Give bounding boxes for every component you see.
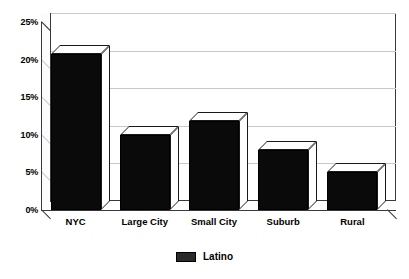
- legend-label-latino: Latino: [203, 252, 233, 262]
- x-axis-line: [41, 210, 396, 211]
- bar-front-face: [51, 54, 101, 210]
- x-axis-label: Small City: [179, 216, 248, 228]
- legend-swatch-latino: [176, 252, 196, 262]
- bar-small-city: [189, 112, 239, 210]
- bar-front-face: [189, 121, 239, 210]
- gridline: [50, 13, 396, 14]
- bar-large-city: [120, 126, 170, 210]
- bar-side-face: [101, 45, 110, 210]
- y-axis-tick-label: 5%: [4, 168, 38, 177]
- x-axis-label: NYC: [41, 216, 110, 228]
- bar-side-face: [377, 163, 386, 210]
- bar-front-face: [258, 150, 308, 210]
- bar-suburb: [258, 141, 308, 210]
- y-axis-tick-label: 15%: [4, 93, 38, 102]
- x-axis-label: Suburb: [249, 216, 318, 228]
- x-axis-label: Large City: [110, 216, 179, 228]
- y-axis-tick-label: 20%: [4, 56, 38, 65]
- bar-side-face: [239, 112, 248, 210]
- chart-legend: Latino: [0, 252, 409, 262]
- y-axis-tick-labels: 0%5%10%15%20%25%: [0, 0, 38, 279]
- bar-side-face: [308, 141, 317, 210]
- y-axis-tick-label: 0%: [4, 206, 38, 215]
- y-axis-line: [41, 22, 42, 211]
- bar-nyc: [51, 45, 101, 210]
- y-axis-tick-label: 25%: [4, 18, 38, 27]
- y-axis-tick-label: 10%: [4, 131, 38, 140]
- bar-front-face: [327, 172, 377, 210]
- bar-front-face: [120, 135, 170, 210]
- x-axis-label: Rural: [318, 216, 387, 228]
- bar-chart: 0%5%10%15%20%25% NYCLarge CitySmall City…: [0, 0, 409, 279]
- bar-side-face: [170, 126, 179, 210]
- bar-rural: [327, 163, 377, 210]
